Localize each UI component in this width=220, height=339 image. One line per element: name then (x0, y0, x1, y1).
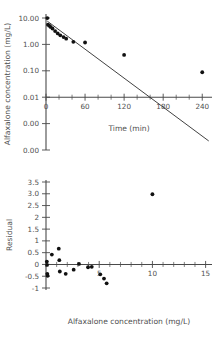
chart-concentration-vs-time: 10.001.000.100.010.000.00060120180240Tim… (0, 0, 220, 170)
x-tick-label: 10 (148, 269, 158, 278)
data-point (57, 258, 61, 262)
y-axis-title: Alfaxalone concentration (mg/L) (3, 23, 12, 145)
y-tick-label: 3.5 (28, 178, 39, 187)
residual-plot: 3.53.02.521.510.50-0.5-151015Alfaxalone … (0, 170, 220, 339)
data-point (45, 260, 49, 264)
y-tick-label: 0.10 (23, 66, 39, 75)
y-tick-label: 0.00 (23, 146, 39, 155)
data-point (46, 274, 50, 278)
y-tick-label: 0 (34, 260, 39, 269)
y-tick-label: 0.01 (23, 93, 39, 102)
x-tick-label: 0 (44, 102, 49, 111)
data-point (50, 253, 54, 257)
concentration-vs-time-plot: 10.001.000.100.010.000.00060120180240Tim… (0, 0, 220, 170)
y-tick-label: 3.0 (28, 189, 40, 198)
y-tick-label: 0.5 (28, 248, 39, 257)
data-point (57, 247, 61, 251)
data-point (64, 272, 68, 276)
y-tick-label: 1 (34, 236, 39, 245)
y-tick-label: 10.00 (18, 14, 39, 23)
x-tick-label: 15 (201, 269, 210, 278)
x-axis-title: Alfaxalone concentration (mg/L) (68, 317, 190, 326)
data-point (102, 277, 106, 281)
data-point (64, 37, 68, 41)
figure-container: 10.001.000.100.010.000.00060120180240Tim… (0, 0, 220, 339)
data-point (45, 263, 49, 267)
data-point (151, 192, 155, 196)
y-tick-label: -0.5 (25, 272, 39, 281)
y-tick-label: 1.00 (23, 40, 39, 49)
x-tick-label: 240 (195, 102, 209, 111)
data-point (45, 16, 49, 20)
y-axis-title: Residual (5, 219, 14, 251)
x-tick-label: 120 (117, 102, 131, 111)
y-tick-label: 2.5 (28, 201, 39, 210)
x-tick-label: 60 (80, 102, 90, 111)
y-tick-label: 2 (34, 213, 39, 222)
data-point (98, 272, 102, 276)
y-tick-label: 0.00 (23, 119, 39, 128)
data-point (105, 281, 109, 285)
data-point (86, 265, 90, 269)
data-point (122, 53, 126, 57)
data-point (83, 41, 87, 45)
x-axis-title: Time (min) (107, 124, 149, 133)
regression-line (47, 21, 208, 141)
data-point (77, 262, 81, 266)
data-point (200, 70, 204, 74)
data-point (90, 265, 94, 269)
y-tick-label: -1 (32, 284, 39, 293)
data-point (58, 33, 62, 37)
data-point (71, 40, 75, 44)
chart-residual-plot: 3.53.02.521.510.50-0.5-151015Alfaxalone … (0, 170, 220, 339)
data-point (58, 270, 62, 274)
y-tick-label: 1.5 (28, 225, 39, 234)
data-point (72, 268, 76, 272)
